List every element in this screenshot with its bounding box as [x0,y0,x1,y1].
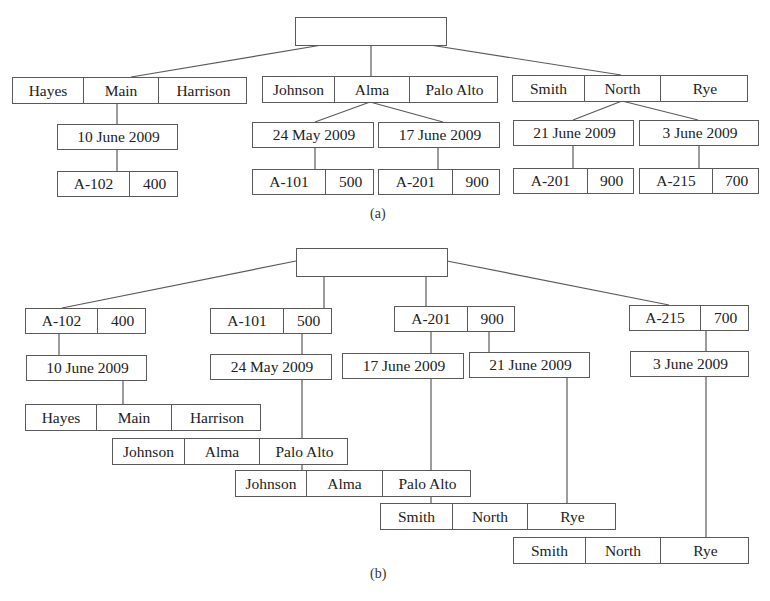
node-cell: Rye [527,504,617,529]
node-cell: 900 [467,307,516,331]
tree-node: JohnsonAlmaPalo Alto [235,470,471,497]
node-cell: 400 [97,309,147,333]
node-cell: Palo Alto [382,471,472,496]
node-cell: A-201 [514,169,587,193]
node-cell: Harrison [171,405,262,430]
node-cell: Main [83,78,158,103]
node-cell: 17 June 2009 [343,354,465,378]
tree-node: 3 June 2009 [630,351,749,377]
tree-edge [62,261,296,308]
tree-node: A-215700 [629,305,749,331]
tree-node: 17 June 2009 [378,122,500,148]
node-cell: 700 [712,169,760,193]
node-cell: Palo Alto [259,439,349,464]
node-cell: Johnson [263,77,334,102]
node-cell: Smith [381,504,452,529]
node-cell [297,249,449,276]
part-caption: (b) [370,566,386,582]
node-cell: 24 May 2009 [211,355,333,379]
tree-node: A-101500 [252,169,374,195]
node-cell: Alma [184,439,259,464]
tree-edge [447,261,669,305]
tree-node: 3 June 2009 [639,120,759,146]
node-cell: Main [96,405,171,430]
node-cell: 24 May 2009 [253,123,375,147]
tree-node: A-201900 [513,168,634,194]
tree-edge [131,45,322,77]
node-cell: Hayes [13,78,83,103]
node-cell: A-215 [630,306,700,330]
node-cell: 900 [587,169,635,193]
tree-node: A-102400 [25,308,146,334]
node-cell: North [452,504,527,529]
node-cell: 10 June 2009 [58,125,179,149]
tree-root-node [296,248,448,277]
node-cell: A-102 [26,309,97,333]
tree-node: 24 May 2009 [252,122,374,148]
node-cell: A-101 [211,309,283,333]
node-cell: Johnson [236,471,306,496]
tree-edge [430,45,621,75]
tree-edge [315,102,370,122]
tree-node: HayesMainHarrison [12,77,247,104]
node-cell: 10 June 2009 [27,356,148,380]
node-cell: Smith [514,538,585,563]
tree-node: A-201900 [378,169,500,195]
node-cell: 500 [283,309,333,333]
node-cell: A-201 [379,170,452,194]
tree-node: JohnsonAlmaPalo Alto [112,438,348,465]
tree-node: A-201900 [394,306,515,332]
node-cell: 21 June 2009 [470,353,591,377]
tree-node: 21 June 2009 [469,352,590,378]
tree-node: SmithNorthRye [380,503,616,530]
node-cell: 21 June 2009 [514,121,635,145]
tree-node: 10 June 2009 [26,355,147,381]
node-cell: A-101 [253,170,325,194]
node-cell: A-215 [640,169,712,193]
node-cell: 500 [325,170,375,194]
node-cell: 3 June 2009 [640,121,760,145]
tree-node: 24 May 2009 [210,354,332,380]
tree-edge [370,102,443,122]
node-cell: A-201 [395,307,467,331]
tree-node: A-102400 [57,171,178,197]
tree-root-node [295,17,447,46]
node-cell: 400 [129,172,179,196]
node-cell: Alma [334,77,409,102]
node-cell: 17 June 2009 [379,123,501,147]
node-cell: North [585,538,660,563]
tree-node: A-101500 [210,308,332,334]
node-cell: Hayes [26,405,96,430]
part-caption: (a) [370,206,386,222]
node-cell: Palo Alto [409,77,499,102]
tree-node: SmithNorthRye [513,537,749,564]
node-cell: Alma [306,471,382,496]
tree-node: A-215700 [639,168,759,194]
node-cell: 900 [452,170,501,194]
tree-node: 17 June 2009 [342,353,464,379]
node-cell: Johnson [113,439,184,464]
tree-figure: HayesMainHarrisonJohnsonAlmaPalo AltoSmi… [0,0,770,601]
node-cell: 3 June 2009 [631,352,750,376]
node-cell: Rye [660,538,750,563]
node-cell: A-102 [58,172,129,196]
tree-node: 21 June 2009 [513,120,634,146]
node-cell: North [584,76,660,101]
node-cell: Rye [660,76,749,101]
node-cell: 700 [700,306,750,330]
tree-node: 10 June 2009 [57,124,178,150]
tree-node: JohnsonAlmaPalo Alto [262,76,498,103]
node-cell [296,18,448,45]
tree-node: HayesMainHarrison [25,404,261,431]
node-cell: Harrison [158,78,248,103]
tree-node: SmithNorthRye [512,75,748,102]
tree-edge [573,101,622,120]
node-cell: Smith [513,76,584,101]
tree-edge [622,101,698,120]
